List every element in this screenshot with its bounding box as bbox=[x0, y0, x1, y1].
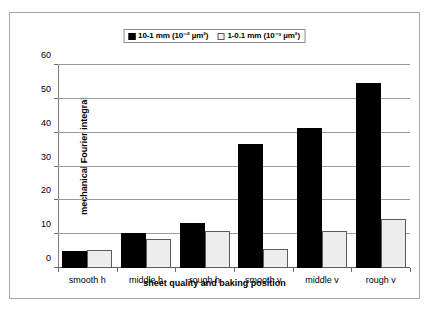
x-tick-label: rough v bbox=[351, 275, 410, 285]
x-tick-label: middle h bbox=[117, 275, 176, 285]
y-tick-label: 60 bbox=[41, 50, 51, 60]
filled-square-icon bbox=[128, 33, 135, 40]
legend-label-series-b: 1-0.1 mm (10⁻³ µm²) bbox=[227, 32, 300, 40]
y-tick-label: 40 bbox=[41, 118, 51, 128]
bar-series-b[interactable] bbox=[381, 219, 406, 268]
x-tick-label: smooth v bbox=[234, 275, 293, 285]
bar-series-a[interactable] bbox=[180, 223, 205, 268]
chart-legend: 10-1 mm (10⁻² µm²) 1-0.1 mm (10⁻³ µm²) bbox=[123, 29, 306, 43]
bar-series-a[interactable] bbox=[62, 251, 87, 268]
legend-label-series-a: 10-1 mm (10⁻² µm²) bbox=[138, 32, 208, 40]
bar-series-a[interactable] bbox=[238, 144, 263, 269]
bar-group: middle h bbox=[117, 65, 176, 268]
bar-groups: smooth hmiddle hrough hsmooth vmiddle vr… bbox=[58, 65, 410, 268]
x-tick-mark bbox=[117, 268, 118, 272]
x-tick-label: middle v bbox=[293, 275, 352, 285]
bar-group: smooth h bbox=[58, 65, 117, 268]
bar-series-b[interactable] bbox=[87, 250, 112, 268]
x-tick-mark bbox=[58, 268, 59, 272]
bar-series-a[interactable] bbox=[297, 128, 322, 268]
bar-group: rough v bbox=[351, 65, 410, 268]
bar-group: smooth v bbox=[234, 65, 293, 268]
x-tick-mark bbox=[293, 268, 294, 272]
x-tick-mark bbox=[410, 268, 411, 272]
x-tick-mark bbox=[234, 268, 235, 272]
bar-series-b[interactable] bbox=[146, 239, 171, 268]
x-tick-mark bbox=[351, 268, 352, 272]
y-tick-label: 20 bbox=[41, 185, 51, 195]
figure: 10-1 mm (10⁻² µm²) 1-0.1 mm (10⁻³ µm²) m… bbox=[0, 0, 431, 311]
bar-series-a[interactable] bbox=[356, 83, 381, 268]
y-tick-label: 10 bbox=[41, 219, 51, 229]
bar-series-a[interactable] bbox=[121, 233, 146, 268]
bar-series-b[interactable] bbox=[322, 231, 347, 268]
legend-entry-series-a: 10-1 mm (10⁻² µm²) bbox=[128, 32, 208, 40]
bar-group: middle v bbox=[293, 65, 352, 268]
bar-series-b[interactable] bbox=[205, 231, 230, 268]
x-tick-label: smooth h bbox=[58, 275, 117, 285]
hollow-square-icon bbox=[217, 33, 224, 40]
plot-wrap: 0102030405060 smooth hmiddle hrough hsmo… bbox=[58, 65, 410, 268]
bar-series-b[interactable] bbox=[263, 249, 288, 268]
legend-entry-series-b: 1-0.1 mm (10⁻³ µm²) bbox=[217, 32, 300, 40]
x-tick-label: rough h bbox=[175, 275, 234, 285]
y-tick-label: 50 bbox=[41, 84, 51, 94]
x-tick-mark bbox=[175, 268, 176, 272]
y-tick-label: 30 bbox=[41, 152, 51, 162]
chart-frame: 10-1 mm (10⁻² µm²) 1-0.1 mm (10⁻³ µm²) m… bbox=[9, 12, 420, 299]
bar-group: rough h bbox=[175, 65, 234, 268]
y-tick-label: 0 bbox=[46, 253, 51, 263]
